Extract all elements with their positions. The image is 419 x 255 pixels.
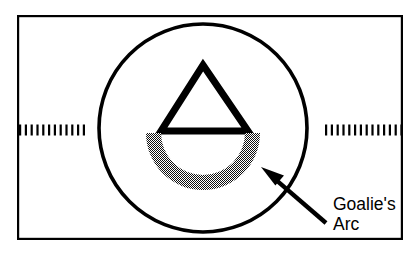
rink-diagram-svg: Goalie's Arc	[0, 0, 419, 255]
diagram-canvas: Goalie's Arc	[0, 0, 419, 255]
callout-label-line-2: Arc	[333, 214, 360, 234]
callout-label-line-1: Goalie's	[333, 194, 396, 214]
